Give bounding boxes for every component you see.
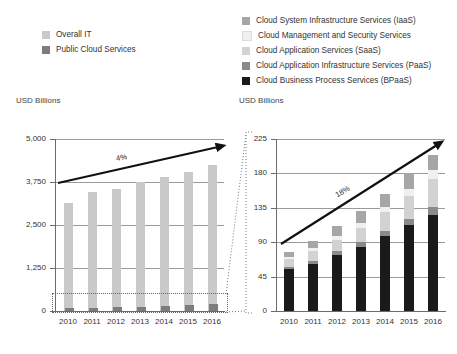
y-axis-tick-label: 180 xyxy=(227,168,267,177)
cagr-arrow xyxy=(277,139,445,311)
y-axis-tick-label: 135 xyxy=(227,203,267,212)
y-axis-tick-label: 0 xyxy=(227,306,267,315)
y-axis-tick-label: 45 xyxy=(227,272,267,281)
public-cloud-services-chart: 0459013518022520102011201220132014201520… xyxy=(0,0,457,354)
right-plot-area: 0459013518022520102011201220132014201520… xyxy=(277,139,445,311)
y-axis-tick xyxy=(271,311,277,312)
x-axis-line xyxy=(276,311,446,312)
y-axis-tick-label: 225 xyxy=(227,134,267,143)
y-axis-tick-label: 90 xyxy=(227,237,267,246)
x-axis-tick-label: 2016 xyxy=(417,317,449,326)
